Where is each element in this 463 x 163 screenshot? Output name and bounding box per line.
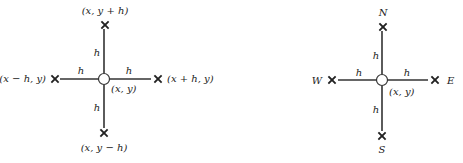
compass-stencil-diagram: N S W E h h h h (x, y) [312,7,455,155]
stencil-figure: (x, y + h) (x, y − h) (x − h, y) (x + h,… [0,0,463,163]
x-mark-icon [52,76,58,82]
x-mark-icon [432,77,438,83]
edge-label-down: h [94,102,100,113]
x-mark-icon [329,77,335,83]
edge-label-left: h [78,65,84,76]
x-mark-icon [102,22,108,28]
x-mark-icon [379,133,385,139]
neighbor-label-bottom: (x, y − h) [81,142,128,153]
edge-label-down: h [373,104,379,115]
center-label: (x, y) [111,83,137,94]
center-label: (x, y) [389,86,415,97]
center-node [377,75,388,86]
compass-label-west: W [312,75,323,86]
x-mark-icon [155,76,161,82]
compass-label-south: S [379,144,386,155]
compass-label-east: E [446,75,455,86]
neighbor-label-top: (x, y + h) [82,5,129,16]
x-mark-icon [380,24,386,30]
neighbor-label-left: (x − h, y) [0,73,46,84]
coordinate-stencil-diagram: (x, y + h) (x, y − h) (x − h, y) (x + h,… [0,5,214,153]
edge-label-up: h [373,50,379,61]
compass-label-north: N [378,7,389,18]
edge-label-right: h [404,67,410,78]
center-node [99,74,110,85]
x-mark-icon [101,130,107,136]
edge-label-up: h [94,47,100,58]
edge-label-right: h [126,65,132,76]
edge-label-left: h [356,67,362,78]
neighbor-label-right: (x + h, y) [167,73,214,84]
